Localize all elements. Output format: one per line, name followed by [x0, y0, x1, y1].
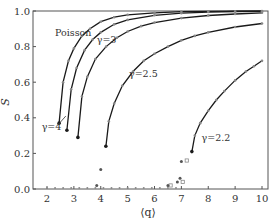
data-marker	[81, 95, 84, 98]
filled-marker	[99, 168, 102, 171]
data-marker	[253, 65, 256, 68]
baseline-marker	[127, 187, 129, 189]
data-marker	[67, 60, 70, 63]
data-marker	[86, 76, 89, 79]
critical-point-marker	[65, 128, 69, 132]
data-marker	[207, 14, 210, 17]
y-tick-label: 1.0	[14, 6, 30, 17]
baseline-marker	[135, 187, 137, 189]
x-tick-label: 10	[256, 193, 269, 204]
baseline-marker	[119, 187, 121, 189]
data-marker	[199, 122, 202, 125]
data-marker	[215, 99, 218, 102]
baseline-marker	[46, 187, 48, 189]
data-marker	[234, 10, 237, 13]
baseline-marker	[78, 187, 80, 189]
data-marker	[261, 60, 264, 63]
data-marker	[62, 81, 65, 84]
data-marker	[194, 35, 197, 38]
data-marker	[142, 60, 145, 63]
data-marker	[83, 49, 86, 52]
data-marker	[105, 45, 108, 48]
line-chart: 23456789100.00.20.40.60.81.0 Poissonγ=3γ…	[0, 0, 276, 222]
x-tick-label: 8	[205, 193, 211, 204]
baseline-marker	[102, 187, 104, 189]
data-marker	[153, 52, 156, 55]
baseline-marker	[151, 187, 153, 189]
x-tick-label: 5	[124, 193, 130, 204]
x-tick-label: 9	[232, 193, 238, 204]
y-tick-label: 0.4	[14, 112, 30, 123]
x-tick-label: 7	[178, 193, 184, 204]
open-marker	[181, 180, 184, 183]
axes: 23456789100.00.20.40.60.81.0	[14, 6, 268, 205]
data-marker	[121, 84, 124, 87]
data-marker	[234, 13, 237, 16]
data-marker	[207, 31, 210, 34]
filled-marker	[166, 184, 169, 187]
data-marker	[113, 23, 116, 26]
data-marker	[75, 67, 78, 70]
data-marker	[108, 120, 111, 123]
baseline-marker	[70, 187, 72, 189]
x-tick-label: 4	[98, 193, 104, 204]
data-marker	[140, 25, 143, 28]
annotations: Poissonγ=3γ=2.5γ=2.2γ=4	[42, 27, 231, 143]
data-marker	[167, 45, 170, 48]
baseline-marker	[62, 187, 64, 189]
filled-marker	[95, 184, 98, 187]
baseline-marker	[94, 187, 96, 189]
x-axis-label: ⟨q⟩	[140, 206, 156, 219]
x-tick-label: 3	[71, 193, 77, 204]
y-axis-label: S	[0, 98, 12, 106]
series-line	[67, 11, 262, 130]
series-annotation: γ=2.5	[129, 68, 158, 79]
data-marker	[180, 39, 183, 42]
data-marker	[180, 17, 183, 20]
data-marker	[245, 70, 248, 73]
series-line	[78, 13, 262, 138]
critical-point-marker	[76, 136, 80, 140]
y-tick-label: 0.2	[14, 148, 30, 159]
baseline-marker	[143, 187, 145, 189]
data-marker	[70, 88, 73, 91]
data-marker	[126, 19, 129, 22]
baseline-marker	[54, 187, 56, 189]
critical-point-marker	[104, 144, 108, 148]
data-marker	[94, 58, 97, 61]
x-tick-label: 6	[151, 193, 157, 204]
data-marker	[153, 11, 156, 14]
series-annotation: Poisson	[55, 27, 91, 38]
data-marker	[180, 12, 183, 15]
series-annotation: γ=2.2	[202, 132, 231, 143]
baseline-marker	[86, 187, 88, 189]
data-marker	[153, 14, 156, 17]
y-tick-label: 0.6	[14, 77, 30, 88]
x-tick-label: 2	[44, 193, 50, 204]
filled-marker	[179, 177, 182, 180]
y-tick-label: 0.0	[14, 184, 30, 195]
data-marker	[126, 30, 129, 33]
data-marker	[91, 38, 94, 41]
baseline-marker	[159, 187, 161, 189]
data-marker	[223, 90, 226, 93]
y-tick-label: 0.8	[14, 41, 30, 52]
series-line	[106, 24, 262, 147]
data-marker	[261, 22, 264, 25]
data-marker	[126, 14, 129, 17]
baseline-marker	[175, 187, 177, 189]
open-marker	[169, 184, 172, 187]
baseline-marker	[111, 187, 113, 189]
data-marker	[113, 16, 116, 19]
open-marker	[185, 159, 188, 162]
data-marker	[207, 11, 210, 14]
filled-marker	[176, 180, 179, 183]
data-marker	[261, 11, 264, 14]
data-marker	[234, 26, 237, 29]
critical-point-marker	[190, 150, 194, 154]
data-marker	[73, 47, 76, 50]
chart-container: 23456789100.00.20.40.60.81.0 Poissonγ=3γ…	[0, 0, 276, 222]
data-marker	[99, 20, 102, 23]
filled-marker	[180, 160, 183, 163]
data-marker	[113, 102, 116, 105]
